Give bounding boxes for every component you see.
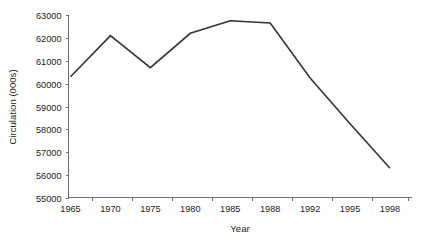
x-tick-label: 1980: [180, 204, 200, 214]
circulation-line: [71, 21, 391, 169]
x-tick-label: 1970: [100, 204, 120, 214]
x-tick-label-group: 196519701975198019851988199219951998: [60, 204, 400, 214]
y-tick-label: 61000: [36, 57, 62, 67]
y-tick-label: 57000: [36, 148, 62, 158]
y-axis-title: Circulation (000s): [7, 69, 18, 144]
x-tick-label: 1988: [260, 204, 280, 214]
x-tick-label: 1995: [340, 204, 360, 214]
x-tick-marks: [93, 198, 409, 201]
x-tick-label: 1965: [60, 204, 80, 214]
y-tick-label: 55000: [36, 194, 62, 204]
y-axis: [66, 15, 69, 199]
y-tick-label: 62000: [36, 34, 62, 44]
y-tick-label: 59000: [36, 103, 62, 113]
y-tick-label: 58000: [36, 125, 62, 135]
x-axis: [69, 198, 413, 202]
x-tick-label: 1975: [140, 204, 160, 214]
x-tick-label: 1998: [380, 204, 400, 214]
x-axis-title: Year: [230, 223, 250, 234]
x-tick-label: 1985: [220, 204, 240, 214]
y-tick-label: 56000: [36, 171, 62, 181]
y-tick-label-group: 5500056000570005800059000600006100062000…: [36, 11, 62, 204]
y-tick-label: 63000: [36, 11, 62, 21]
y-tick-label: 60000: [36, 80, 62, 90]
chart-canvas: 5500056000570005800059000600006100062000…: [0, 0, 424, 242]
x-tick-label: 1992: [300, 204, 320, 214]
line-chart: 5500056000570005800059000600006100062000…: [0, 0, 424, 242]
